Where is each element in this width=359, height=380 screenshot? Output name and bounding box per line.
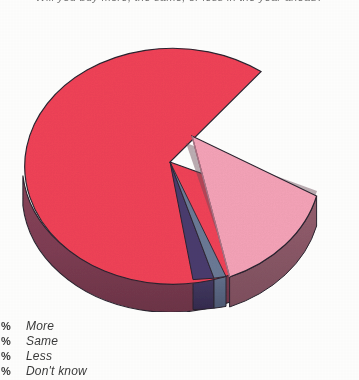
chart-legend: % More % Same % Less % Don't know — [0, 319, 200, 379]
legend-percent-less: % — [0, 349, 26, 364]
pie-chart — [0, 0, 359, 312]
legend-percent-same: % — [0, 334, 26, 349]
pie-chart-svg — [0, 0, 359, 312]
legend-item-dont-know: % Don't know — [0, 364, 200, 379]
legend-label-same: Same — [26, 334, 58, 349]
legend-percent-dont-know: % — [0, 364, 26, 379]
legend-item-less: % Less — [0, 349, 200, 364]
legend-label-dont-know: Don't know — [26, 364, 87, 379]
legend-label-less: Less — [26, 349, 52, 364]
slice-side-dont-know — [214, 276, 226, 308]
legend-percent-more: % — [0, 319, 26, 334]
legend-label-more: More — [26, 319, 54, 334]
legend-item-more: % More — [0, 319, 200, 334]
legend-item-same: % Same — [0, 334, 200, 349]
